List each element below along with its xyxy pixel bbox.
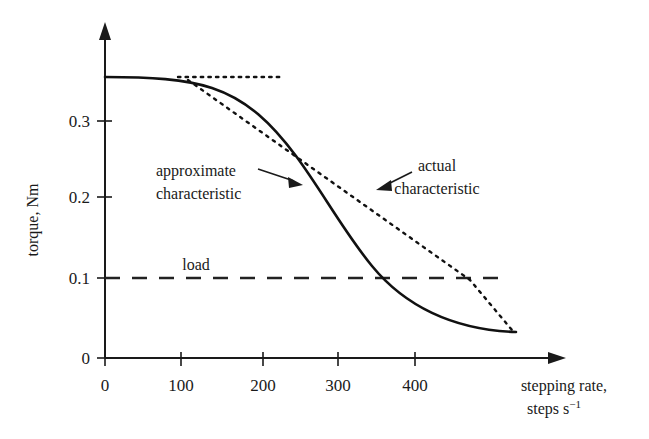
annotation-actual-line1: actual [418, 157, 457, 174]
y-tick-label-0.1: 0.1 [69, 269, 90, 288]
annotation-approximate-line1: approximate [156, 162, 236, 180]
y-tick-label-0: 0 [82, 349, 91, 368]
y-axis-title: torque, Nm [24, 183, 42, 256]
x-tick-label-400: 400 [402, 376, 428, 395]
x-tick-label-0: 0 [101, 376, 110, 395]
chart-svg: 0 0.1 0.2 0.3 0 100 200 300 400 torque, … [0, 0, 649, 439]
x-tick-label-100: 100 [168, 376, 194, 395]
annotation-approximate-line2: characteristic [156, 185, 241, 202]
chart-background [0, 0, 649, 439]
x-axis-title-line2-main: steps s [527, 400, 569, 418]
torque-speed-chart: 0 0.1 0.2 0.3 0 100 200 300 400 torque, … [0, 0, 649, 439]
x-tick-label-300: 300 [325, 376, 351, 395]
y-tick-label-0.3: 0.3 [69, 112, 90, 131]
y-tick-label-0.2: 0.2 [69, 188, 90, 207]
x-axis-title-line1: stepping rate, [521, 377, 607, 395]
annotation-load-label: load [182, 256, 210, 273]
annotation-actual-line2: characteristic [394, 180, 479, 197]
x-tick-label-200: 200 [250, 376, 276, 395]
x-axis-title-line2-superscript: −1 [569, 398, 581, 410]
